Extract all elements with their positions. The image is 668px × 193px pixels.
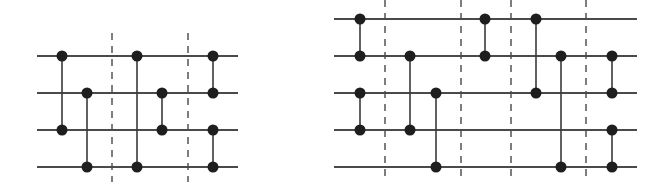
gate-dot [556,51,567,62]
gate-dot [405,125,416,136]
gate-dot [208,125,219,136]
gate-dot [132,51,143,62]
gate-dot [132,162,143,173]
gate-dot [607,51,618,62]
gate-dot [556,162,567,173]
left-circuit [37,33,238,182]
gate-dot [531,88,542,99]
gate-dot [355,125,366,136]
circuit-diagrams [0,0,668,193]
gate-dot [355,88,366,99]
gate-dot [480,14,491,25]
gate-dot [157,88,168,99]
gate-dot [431,88,442,99]
gate-dot [157,125,168,136]
gate-dot [607,88,618,99]
gate-dot [355,14,366,25]
gate-dot [208,88,219,99]
right-circuit [334,0,637,182]
gate-dot [208,162,219,173]
gate-dot [208,51,219,62]
gate-dot [57,51,68,62]
gate-dot [405,51,416,62]
gate-dot [480,51,491,62]
gate-dot [82,162,93,173]
gate-dot [431,162,442,173]
gate-dot [531,14,542,25]
gate-dot [607,125,618,136]
gate-dot [57,125,68,136]
gate-dot [607,162,618,173]
gate-dot [355,51,366,62]
gate-dot [82,88,93,99]
